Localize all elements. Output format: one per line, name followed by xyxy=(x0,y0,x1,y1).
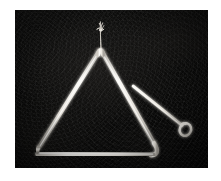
photo-border xyxy=(0,0,221,181)
photograph xyxy=(15,10,208,168)
triangle-open-corner xyxy=(37,148,38,153)
photo-caption xyxy=(15,170,208,179)
triangle-apex xyxy=(98,50,103,54)
triangle-left-side xyxy=(38,51,99,149)
hanging-cord xyxy=(97,22,104,50)
screenshot-root xyxy=(0,0,221,181)
triangle-bottom-bar xyxy=(38,153,154,155)
triangle-instrument-artwork xyxy=(15,10,208,168)
